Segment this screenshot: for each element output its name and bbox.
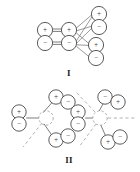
plus-sign-glyph: + [116,98,120,106]
minus-sign-glyph: − [66,132,70,140]
structure-II-right-group: + − − + + − [71,90,135,149]
label-structure-I: I [67,68,71,78]
node-upper-minus: − [98,90,112,104]
bond-center-lower-to-tr-plus [76,17,92,41]
label-structure-II: II [65,155,73,165]
plus-sign-glyph: + [94,41,98,49]
node-lower-minus: − [113,130,127,144]
plus-sign-glyph: + [54,136,58,144]
bond-center-lower-to-br-minus [76,46,89,56]
node-center-lower-minus: − [61,35,76,50]
minus-sign-glyph: − [97,23,101,31]
structure-I-nodes: + − + − + [37,6,106,65]
node-bottom-right-minus: − [88,50,103,65]
dipole-structures-figure: + − + − + [0,0,140,172]
node-top-right-minus: − [91,19,106,34]
bond-center-upper-to-tr-plus [76,15,91,28]
structure-II-left-group: + − + − + − [12,90,75,147]
plus-sign-glyph: + [54,93,58,101]
bond-center-to-upper [99,104,103,111]
plus-sign-glyph: + [43,26,47,34]
minus-sign-glyph: − [103,93,107,101]
bond-center-to-lower [101,125,106,136]
minus-sign-glyph: − [66,98,70,106]
figure-canvas: + − + − + [0,0,140,172]
plus-sign-glyph: + [17,108,21,116]
minus-sign-glyph: − [43,39,47,47]
bond-center-lower-to-br-plus [76,45,88,46]
plus-sign-glyph: + [67,26,71,34]
structure-I-group: + − + − + [37,6,106,65]
bond-center-to-lower [44,124,51,135]
minus-sign-glyph: − [94,54,98,62]
node-left-minus: − [12,117,26,131]
plus-sign-glyph: + [76,108,80,116]
plus-sign-glyph: + [106,138,110,146]
central-dashed-sphere [39,111,53,125]
minus-sign-glyph: − [118,133,122,141]
node-lower-minus: − [61,129,75,143]
minus-sign-glyph: − [17,120,21,128]
central-dashed-sphere [93,111,107,125]
node-left-minus: − [71,117,85,131]
minus-sign-glyph: − [76,120,80,128]
minus-sign-glyph: − [67,39,71,47]
plus-sign-glyph: + [97,10,101,18]
node-left-lower-minus: − [37,35,52,50]
node-upper-plus: + [111,95,125,109]
